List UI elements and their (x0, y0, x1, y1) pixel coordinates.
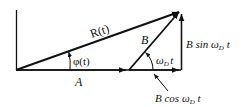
label-b-cos: B cos ωD t (155, 92, 201, 106)
b-cos-pointer (154, 74, 168, 91)
label-a: A (74, 75, 83, 89)
label-omega-t: ωDt (156, 54, 174, 68)
label-b: B (141, 33, 149, 47)
label-b-sin: B sin ωD t (186, 38, 231, 52)
phi-angle-arc (69, 52, 70, 70)
omega-angle-arc (146, 53, 154, 71)
label-phi: φ(t) (73, 55, 90, 68)
phasor-diagram: R(t) φ(t) A B ωDt B sin ωD t B cos ωD t (0, 0, 243, 107)
